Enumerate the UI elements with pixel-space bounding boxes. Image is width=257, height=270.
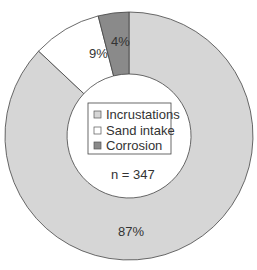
label-sand-intake: 9%	[89, 46, 108, 61]
label-incrustations: 87%	[118, 224, 144, 239]
legend: Incrustations Sand intake Corrosion	[88, 103, 180, 154]
sample-size-annotation: n = 347	[111, 167, 155, 182]
donut-chart: 9% 4% 87% Incrustations Sand intake Corr…	[0, 0, 257, 270]
legend-label-corrosion: Corrosion	[106, 138, 162, 153]
legend-swatch-incrustations	[94, 111, 101, 118]
legend-swatch-sand-intake	[94, 127, 101, 134]
label-corrosion: 4%	[111, 34, 130, 49]
legend-swatch-corrosion	[94, 142, 101, 149]
legend-label-incrustations: Incrustations	[106, 107, 180, 122]
legend-label-sand-intake: Sand intake	[106, 123, 175, 138]
